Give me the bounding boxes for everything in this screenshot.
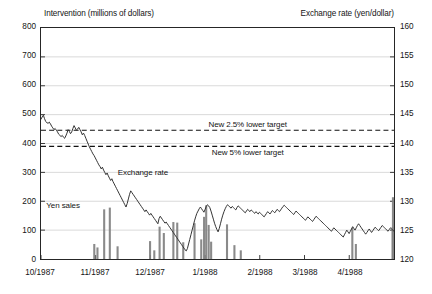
target-reference-lines (41, 130, 394, 146)
right-tick-130: 130 (400, 197, 426, 206)
yen-sales-label: Yen sales (46, 201, 80, 210)
x-tick-4-1988: 4/1988 (320, 268, 380, 277)
right-tick-135: 135 (400, 168, 426, 177)
exchange-rate-line (41, 115, 394, 251)
plot-svg (41, 28, 394, 259)
left-tick-400: 400 (10, 139, 36, 148)
x-tick-10-1987: 10/1987 (10, 268, 70, 277)
left-tick-100: 100 (10, 226, 36, 235)
left-tick-600: 600 (10, 80, 36, 89)
right-tick-155: 155 (400, 51, 426, 60)
right-tick-120: 120 (400, 255, 426, 264)
x-tick-12-1987: 12/1987 (120, 268, 180, 277)
right-axis-title: Exchange rate (yen/dollar) (301, 9, 394, 18)
chart-container: Intervention (millions of dollars) Excha… (0, 0, 432, 294)
left-tick-300: 300 (10, 168, 36, 177)
right-tick-160: 160 (400, 22, 426, 31)
gridlines (41, 57, 394, 230)
plot-area (40, 27, 395, 260)
left-axis-title: Intervention (millions of dollars) (44, 9, 154, 18)
left-tick-0: 0 (10, 255, 36, 264)
yen-sales-bars (93, 197, 394, 259)
right-tick-150: 150 (400, 80, 426, 89)
left-tick-800: 800 (10, 22, 36, 31)
x-tick-11-1987: 11/1987 (65, 268, 125, 277)
lower-target-label: New 5% lower target (212, 148, 284, 157)
right-tick-125: 125 (400, 226, 426, 235)
right-tick-145: 145 (400, 109, 426, 118)
left-tick-700: 700 (10, 51, 36, 60)
upper-target-label: New 2.5% lower target (208, 120, 286, 129)
right-tick-140: 140 (400, 139, 426, 148)
x-tick-1-1988: 1/1988 (175, 268, 235, 277)
left-tick-500: 500 (10, 109, 36, 118)
exchange-rate-label: Exchange rate (118, 168, 168, 177)
left-tick-200: 200 (10, 197, 36, 206)
